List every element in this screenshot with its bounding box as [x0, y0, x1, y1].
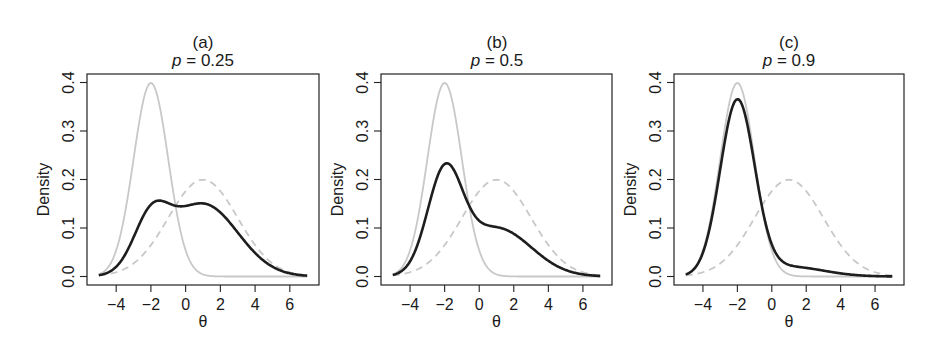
mixture-curve — [99, 201, 307, 276]
x-tick-label: 6 — [578, 296, 587, 313]
x-tick-label: 0 — [475, 296, 484, 313]
y-tick-label: 0.1 — [647, 217, 664, 239]
panel-a-title: p = 0.25 — [171, 51, 234, 70]
panel-c-label: (c) — [779, 33, 799, 52]
y-tick-label: 0.1 — [354, 217, 371, 239]
panel-a-label: (a) — [193, 33, 214, 52]
panel-b: (b) p = 0.5 −4−20246θ0.00.10.20.30.4Dens… — [329, 33, 612, 330]
x-tick-label: 2 — [509, 296, 518, 313]
mixture-curve — [686, 99, 893, 276]
panel-a-plot-area: −4−20246θ0.00.10.20.30.4Density — [35, 71, 319, 330]
y-tick-label: 0.4 — [647, 71, 664, 93]
y-tick-label: 0.3 — [60, 120, 77, 142]
y-axis-label: Density — [329, 163, 346, 216]
y-tick-label: 0.1 — [60, 217, 77, 239]
x-axis-label: θ — [199, 313, 208, 330]
x-tick-label: 0 — [767, 296, 776, 313]
panel-b-title-value: 0.5 — [500, 51, 524, 70]
panel-b-title: p = 0.5 — [470, 51, 523, 70]
x-tick-label: 4 — [836, 296, 845, 313]
y-tick-label: 0.4 — [60, 71, 77, 93]
y-axis-label: Density — [35, 163, 52, 216]
x-tick-label: 2 — [216, 296, 225, 313]
panel-b-plot-area: −4−20246θ0.00.10.20.30.4Density — [329, 71, 612, 330]
x-tick-label: 6 — [285, 296, 294, 313]
panel-c-plot-area: −4−20246θ0.00.10.20.30.4Density — [622, 71, 904, 330]
panel-a: (a) p = 0.25 −4−20246θ0.00.10.20.30.4Den… — [35, 33, 319, 330]
panel-c-title-var: p — [762, 51, 772, 70]
x-tick-label: −4 — [107, 296, 125, 313]
y-tick-label: 0.3 — [354, 120, 371, 142]
y-tick-label: 0.2 — [354, 168, 371, 190]
panel-a-title-var: p — [171, 51, 181, 70]
y-tick-label: 0.2 — [647, 168, 664, 190]
y-tick-label: 0.4 — [354, 71, 371, 93]
x-tick-label: −2 — [728, 296, 746, 313]
x-tick-label: 0 — [181, 296, 190, 313]
x-axis-label: θ — [492, 313, 501, 330]
figure-three-panel-density: (a) p = 0.25 −4−20246θ0.00.10.20.30.4Den… — [0, 0, 938, 343]
panel-a-title-value: 0.25 — [201, 51, 234, 70]
y-tick-label: 0.0 — [647, 265, 664, 287]
y-tick-label: 0.2 — [60, 168, 77, 190]
y-axis-label: Density — [622, 163, 639, 216]
y-tick-label: 0.0 — [60, 265, 77, 287]
x-tick-label: 4 — [544, 296, 553, 313]
panel-b-title-var: p — [470, 51, 480, 70]
x-axis-label: θ — [785, 313, 794, 330]
x-tick-label: 4 — [251, 296, 260, 313]
x-tick-label: 6 — [871, 296, 880, 313]
y-tick-label: 0.3 — [647, 120, 664, 142]
panel-b-label: (b) — [487, 33, 508, 52]
x-tick-label: 2 — [802, 296, 811, 313]
panel-c-title-value: 0.9 — [792, 51, 816, 70]
component-2-dashed-curve — [99, 180, 307, 276]
y-tick-label: 0.0 — [354, 265, 371, 287]
x-tick-label: −4 — [401, 296, 419, 313]
panel-c: (c) p = 0.9 −4−20246θ0.00.10.20.30.4Dens… — [622, 33, 904, 330]
x-tick-label: −2 — [436, 296, 454, 313]
x-tick-label: −2 — [142, 296, 160, 313]
panel-c-title: p = 0.9 — [762, 51, 815, 70]
x-tick-label: −4 — [694, 296, 712, 313]
